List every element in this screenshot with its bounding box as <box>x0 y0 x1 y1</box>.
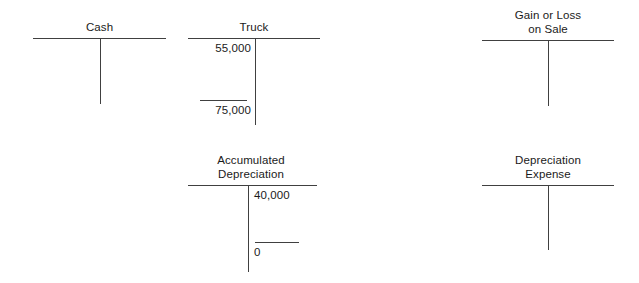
account-title-truck: Truck <box>188 20 320 34</box>
t-account-rule-lines <box>0 0 639 283</box>
accumulated-depreciation-credit-entry: 40,000 <box>254 188 324 202</box>
accumulated-depreciation-credit-total: 0 <box>254 245 324 259</box>
t-account-diagram: Cash Truck 55,000 75,000 Gain or Loss on… <box>0 0 639 283</box>
truck-debit-entry: 55,000 <box>183 41 251 55</box>
account-title-accumulated-depreciation: Accumulated Depreciation <box>185 153 317 181</box>
account-title-depreciation-expense: Depreciation Expense <box>482 153 614 181</box>
truck-debit-total: 75,000 <box>183 103 251 117</box>
account-title-cash: Cash <box>33 20 166 34</box>
account-title-gain-or-loss-on-sale: Gain or Loss on Sale <box>482 8 614 36</box>
